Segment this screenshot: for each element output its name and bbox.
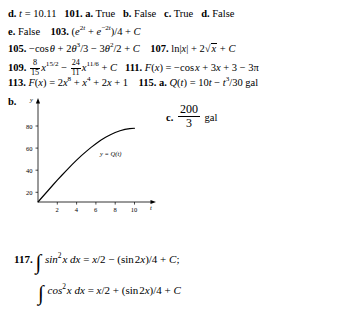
graph-svg [24,96,164,221]
y-tick-40: 40 [26,167,33,174]
x-tick-6: 6 [94,206,97,213]
integral-sign-2: ∫ [38,283,44,304]
integrand-sin: sin [45,253,58,265]
label-105: 105. [8,43,26,54]
label-101a: 101. a. [64,8,93,19]
var-t: t [19,8,22,19]
exponent-2a: 2 [58,251,62,260]
integrand-cos: cos [48,284,63,296]
label-115a: 115. a. [139,77,167,88]
item-c-unit: gal [205,112,218,123]
label-d: d. [8,8,16,19]
variable-x-2: x [67,284,72,296]
x-tick-4: 4 [75,206,78,213]
label-103: 103. [51,26,69,37]
integral-sign-1: ∫ [35,252,41,273]
y-tick-80: 80 [26,123,33,130]
label-b: b. [123,8,131,19]
label-117: 117. [14,253,33,265]
answer-page: d. t = 10.11 101. a. True b. False c. Tr… [0,0,348,325]
fraction-denominator: 3 [178,117,200,130]
item-c: c. 200 3 gal [166,103,217,130]
exponent-2b: 2 [62,282,66,291]
label-109: 109. [8,62,26,73]
label-d2: d. [201,8,209,19]
fraction-200-3: 200 3 [178,103,200,130]
answer-line-2: e. False 103. (e2t + e−2t)/4 + C [8,25,141,37]
x-axis-label: t [150,204,152,211]
item-117-line-2: ∫ cos2 x dx = x/2 + (sin 2x)/4 + C [38,283,181,304]
item-117-line-1: 117. ∫ sin2 x dx = x/2 − (sin 2x)/4 + C; [14,252,179,273]
y-tick-20: 20 [26,189,33,196]
x-tick-10: 10 [131,206,138,213]
answer-line-3: 105. −cos θ + 2θ3/3 − 3θ2/2 + C 107. ln|… [8,42,235,54]
differential-2: dx [74,284,84,296]
label-111: 111. [125,62,142,73]
answer-line-4: 109. 815x15/2 − 2411x11/6 + C 111. F(x) … [8,59,259,77]
variable-x-1: x [62,253,67,265]
curve-label: y = Q(t) [100,150,121,157]
label-e: e. [8,26,15,37]
label-c: c. [164,8,171,19]
differential-1: dx [70,253,80,265]
item-c-label: c. [166,112,173,123]
answer-line-1: d. t = 10.11 101. a. True b. False c. Tr… [8,9,234,20]
fraction-24-11: 2411 [71,59,81,77]
label-107: 107. [150,43,168,54]
item-b-label: b. [8,97,16,108]
answer-line-5: 113. F(x) = 2x8 + x4 + 2x + 1 115. a. Q(… [8,76,258,88]
fraction-numerator: 200 [178,103,200,117]
x-tick-8: 8 [113,206,116,213]
graph-q-of-t: y t 20 40 60 80 2 4 6 8 10 y = Q(t) [24,96,164,221]
label-113: 113. [8,77,26,88]
fraction-8-15: 815 [30,59,40,77]
y-axis-label: y [30,96,33,103]
x-tick-2: 2 [56,206,59,213]
y-tick-60: 60 [26,145,33,152]
